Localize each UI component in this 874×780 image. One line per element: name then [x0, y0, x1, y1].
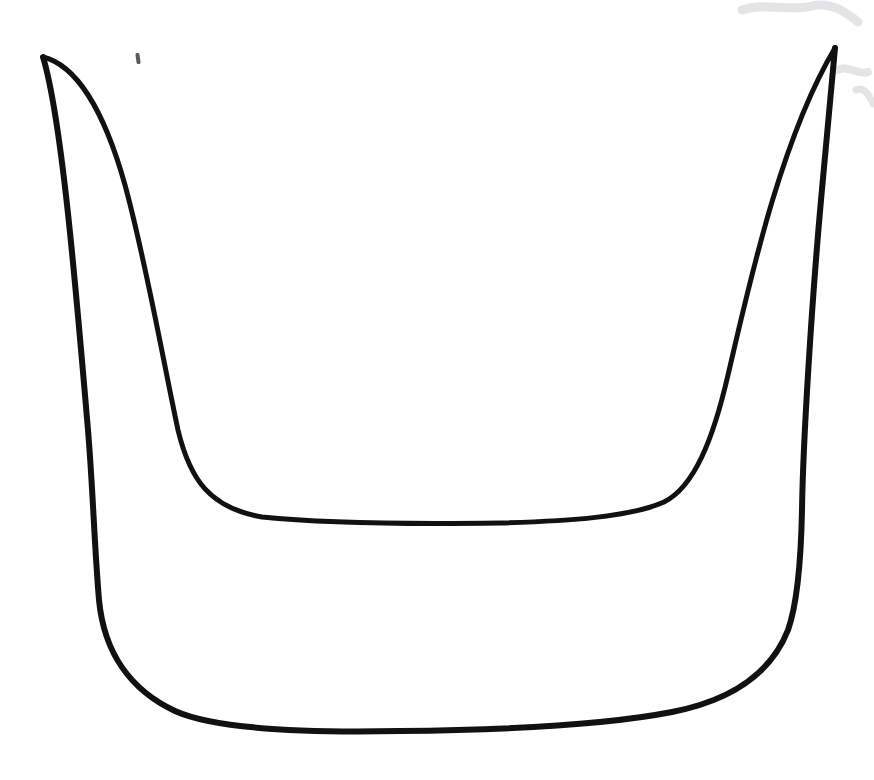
drawing-canvas: Hand-drawn outline sketch A closed hand-…	[0, 0, 874, 780]
paper-background	[0, 0, 874, 780]
line-drawing-svg	[0, 0, 874, 780]
scanner-smudge-corner-icon	[838, 68, 868, 73]
